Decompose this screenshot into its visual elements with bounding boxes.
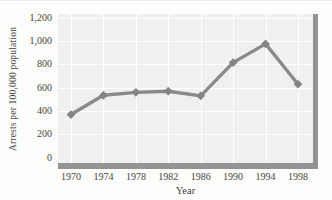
y-tick-label-0: 0 xyxy=(0,152,52,164)
y-tick-label-1,000: 1,000 xyxy=(0,35,52,47)
y-tick-label-1,200: 1,200 xyxy=(0,12,52,24)
x-tick-label-1982: 1982 xyxy=(150,171,186,183)
data-series-layer xyxy=(58,14,313,163)
x-tick-label-1970: 1970 xyxy=(53,171,89,183)
plot-area xyxy=(58,14,318,169)
x-tick-label-1978: 1978 xyxy=(118,171,154,183)
series-line xyxy=(71,44,298,115)
data-point-marker-1982 xyxy=(164,87,173,96)
x-axis-title: Year xyxy=(58,184,313,197)
y-tick-label-200: 200 xyxy=(0,128,52,140)
x-tick-label-1994: 1994 xyxy=(248,171,284,183)
x-tick-label-1974: 1974 xyxy=(85,171,121,183)
y-tick-label-600: 600 xyxy=(0,82,52,94)
x-tick-label-1986: 1986 xyxy=(183,171,219,183)
line-chart-figure: Arrests per 100,000 population 020040060… xyxy=(0,0,332,200)
y-tick-label-400: 400 xyxy=(0,105,52,117)
y-tick-label-800: 800 xyxy=(0,58,52,70)
x-tick-label-1998: 1998 xyxy=(280,171,316,183)
x-tick-label-1990: 1990 xyxy=(215,171,251,183)
data-point-marker-1978 xyxy=(131,88,140,97)
